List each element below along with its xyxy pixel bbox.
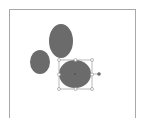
shapes-layer [0,0,145,118]
rotation-handle-icon[interactable] [97,72,101,76]
top-ellipse[interactable] [49,24,73,58]
resize-handle-top-right[interactable] [91,59,94,62]
resize-handle-bottom-left[interactable] [58,88,61,91]
center-point-icon [74,73,76,75]
resize-handle-right[interactable] [91,73,94,76]
resize-handle-top[interactable] [74,59,77,62]
resize-handle-bottom-right[interactable] [91,88,94,91]
resize-handle-left[interactable] [58,73,61,76]
resize-handle-top-left[interactable] [58,59,61,62]
left-ellipse[interactable] [30,50,50,74]
resize-handle-bottom[interactable] [74,88,77,91]
